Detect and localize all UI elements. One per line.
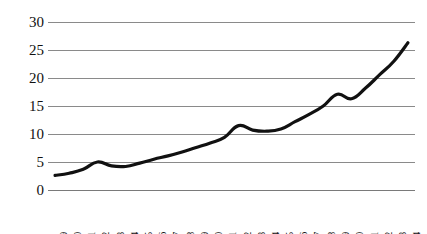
x-tick-label: 2009 [341, 232, 351, 234]
x-tick-label: 2014 [412, 232, 422, 234]
x-tick-label: 2001 [228, 232, 238, 234]
x-tick-label: 1999 [200, 232, 210, 234]
x-tick-label: 1998 [186, 232, 196, 234]
y-tick-label: 20 [0, 71, 44, 86]
x-tick-label: 2000 [214, 232, 224, 234]
y-tick-label: 5 [0, 155, 44, 170]
y-axis: 051015202530 [0, 0, 44, 234]
x-tick-label: 1993 [116, 232, 126, 234]
data-series [48, 22, 415, 190]
x-tick-label: 1990 [73, 232, 83, 234]
y-tick-label: 10 [0, 127, 44, 142]
x-tick-label: 1996 [158, 232, 168, 234]
x-tick-label: 1995 [144, 232, 154, 234]
x-tick-label: 2003 [257, 232, 267, 234]
x-tick-label: 2002 [243, 232, 253, 234]
x-tick-label: 2008 [327, 232, 337, 234]
x-tick-label: 1989 [59, 232, 69, 234]
x-tick-label: 2004 [271, 232, 281, 234]
x-tick-label: 2007 [313, 232, 323, 234]
x-tick-label: 1992 [101, 232, 111, 234]
x-tick-label: 2013 [398, 232, 408, 234]
x-tick-label: 2006 [299, 232, 309, 234]
x-tick-label: 1997 [172, 232, 182, 234]
y-tick-label: 0 [0, 183, 44, 198]
y-tick-label: 15 [0, 99, 44, 114]
x-tick-label: 1994 [130, 232, 140, 234]
series-line [55, 43, 408, 176]
plot-area [48, 22, 415, 190]
y-tick-label: 25 [0, 43, 44, 58]
gridline [48, 190, 415, 191]
x-tick-label: 2010 [355, 232, 365, 234]
y-tick-label: 30 [0, 15, 44, 30]
x-tick-label: 2005 [285, 232, 295, 234]
line-chart: 051015202530 198919901991199219931994199… [0, 0, 427, 234]
x-tick-label: 1991 [87, 232, 97, 234]
x-tick-label: 2011 [370, 232, 380, 234]
x-tick-label: 2012 [384, 232, 394, 234]
x-axis: 1989199019911992199319941995199619971998… [48, 192, 415, 234]
